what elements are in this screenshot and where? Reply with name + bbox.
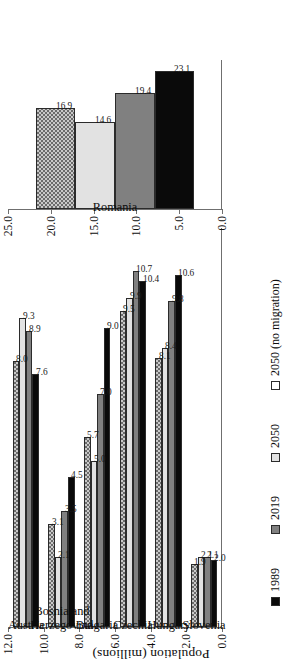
bar-group: 10.69.88.48.1 xyxy=(155,228,181,627)
legend-swatch-icon xyxy=(271,381,280,390)
bar-row: 10.4 xyxy=(139,228,146,627)
bar-row: 2.1 xyxy=(198,228,205,627)
bar-row: 14.6 xyxy=(75,60,115,209)
bar-row: 7.0 xyxy=(97,228,104,627)
bar-2050-no-migration-[interactable] xyxy=(84,437,91,627)
bar-group: 2.02.12.11.9 xyxy=(191,228,217,627)
bar-row: 8.4 xyxy=(162,228,169,627)
bar-2050-no-migration-[interactable] xyxy=(155,358,162,627)
y-axis-tick-label: 4.0 xyxy=(145,634,157,648)
legend-item-1989[interactable]: 1989 xyxy=(268,568,283,606)
bar-row: 4.5 xyxy=(68,228,75,627)
bar-row: 9.3 xyxy=(19,228,26,627)
legend-swatch-icon xyxy=(271,597,280,606)
bar-row: 9.9 xyxy=(126,228,133,627)
bar-value-label: 5.7 xyxy=(82,424,92,436)
legend-label: 2019 xyxy=(268,496,283,520)
bar-value-label: 1.9 xyxy=(189,550,199,562)
plot-area-main: 0.02.04.06.08.010.012.07.68.99.38.04.53.… xyxy=(8,228,222,628)
bar-row: 5.7 xyxy=(84,228,91,627)
bar-value-label: 16.9 xyxy=(51,90,61,106)
y-axis-tick-label: 2.0 xyxy=(180,634,192,648)
bar-2019[interactable] xyxy=(115,93,155,209)
bar-1989[interactable] xyxy=(155,71,195,209)
bar-row: 2.1 xyxy=(55,228,62,627)
bar-row: 8.1 xyxy=(155,228,162,627)
bar-row: 7.6 xyxy=(32,228,39,627)
bar-group: 9.07.05.05.7 xyxy=(84,228,110,627)
bar-value-label: 9.5 xyxy=(118,298,128,310)
bar-row: 2.1 xyxy=(204,228,211,627)
bar-2019[interactable] xyxy=(204,557,211,627)
legend-swatch-icon xyxy=(271,453,280,462)
legend-label: 2050 (no migration) xyxy=(268,279,283,376)
bar-2050-no-migration-[interactable] xyxy=(120,311,127,627)
bar-row: 9.0 xyxy=(104,228,111,627)
bar-value-label: 23.1 xyxy=(169,53,179,69)
bar-value-label: 8.1 xyxy=(154,344,164,356)
bar-row: 1.9 xyxy=(191,228,198,627)
bar-group: 10.410.79.99.5 xyxy=(120,228,146,627)
bar-2050[interactable] xyxy=(198,557,205,627)
bar-row: 23.1 xyxy=(155,60,195,209)
bar-2050-no-migration-[interactable] xyxy=(36,108,76,209)
y-axis-tick-label: 20.0 xyxy=(45,216,57,236)
bar-row: 3.1 xyxy=(48,228,55,627)
bar-row: 16.9 xyxy=(36,60,76,209)
bar-1989[interactable] xyxy=(175,275,182,627)
bar-group: 23.119.414.616.9 xyxy=(36,60,194,209)
y-axis-tick-label: 5.0 xyxy=(173,216,185,230)
bar-row: 8.0 xyxy=(13,228,20,627)
y-axis-tick-label: 8.0 xyxy=(73,634,85,648)
plot-area-romania: 0.05.010.015.020.025.023.119.414.616.9 xyxy=(8,60,222,210)
legend-swatch-icon xyxy=(271,525,280,534)
legend-item-2050-no-migration[interactable]: 2050 (no migration) xyxy=(268,279,283,390)
bar-row: 3.5 xyxy=(61,228,68,627)
bar-2050[interactable] xyxy=(75,122,115,209)
legend-label: 2050 xyxy=(268,424,283,448)
bar-value-label: 19.4 xyxy=(130,75,140,91)
bar-2019[interactable] xyxy=(133,271,140,627)
y-axis-tick-label: 10.0 xyxy=(130,216,142,236)
legend-item-2019[interactable]: 2019 xyxy=(268,496,283,534)
bar-row: 8.9 xyxy=(26,228,33,627)
chart-figure: Population (millions) 0.02.04.06.08.010.… xyxy=(0,0,302,662)
y-axis-tick-label: 6.0 xyxy=(109,634,121,648)
legend-item-2050[interactable]: 2050 xyxy=(268,424,283,462)
bar-value-label: 8.0 xyxy=(11,347,21,359)
x-axis-baseline xyxy=(221,228,222,627)
y-axis-tick xyxy=(222,209,223,214)
y-axis-tick xyxy=(8,209,9,214)
bar-1989[interactable] xyxy=(32,374,39,627)
bar-row: 2.0 xyxy=(211,228,218,627)
bar-value-label: 3.1 xyxy=(47,510,57,522)
legend-label: 1989 xyxy=(268,568,283,592)
chart-panel-main: 0.02.04.06.08.010.012.07.68.99.38.04.53.… xyxy=(0,228,302,628)
bar-1989[interactable] xyxy=(104,328,111,627)
bar-value-label: 14.6 xyxy=(90,104,100,120)
bar-2050[interactable] xyxy=(19,318,26,627)
bar-2019[interactable] xyxy=(26,331,33,627)
chart-legend: 1989 2019 2050 2050 (no migration) xyxy=(268,279,283,606)
y-axis-tick-label: 0.0 xyxy=(216,634,228,648)
x-axis-baseline-romania xyxy=(221,60,222,209)
y-axis-tick-label: 25.0 xyxy=(2,216,14,236)
bar-group: 4.53.52.13.1 xyxy=(48,228,74,627)
bar-group: 7.68.99.38.0 xyxy=(13,228,39,627)
chart-panel-romania: 0.05.010.015.020.025.023.119.414.616.9 R… xyxy=(0,60,302,210)
y-axis-tick-label: 12.0 xyxy=(2,634,14,654)
bar-row: 9.5 xyxy=(120,228,127,627)
bar-row: 9.8 xyxy=(168,228,175,627)
bar-row: 19.4 xyxy=(115,60,155,209)
bar-2050[interactable] xyxy=(91,461,98,627)
bar-2050-no-migration-[interactable] xyxy=(13,361,20,627)
y-axis-tick-label: 10.0 xyxy=(38,634,50,654)
y-axis-tick-label: 0.0 xyxy=(216,216,228,230)
bar-1989[interactable] xyxy=(139,281,146,627)
bar-2050[interactable] xyxy=(126,298,133,627)
y-axis-tick-label: 15.0 xyxy=(88,216,100,236)
bar-2050[interactable] xyxy=(162,348,169,627)
